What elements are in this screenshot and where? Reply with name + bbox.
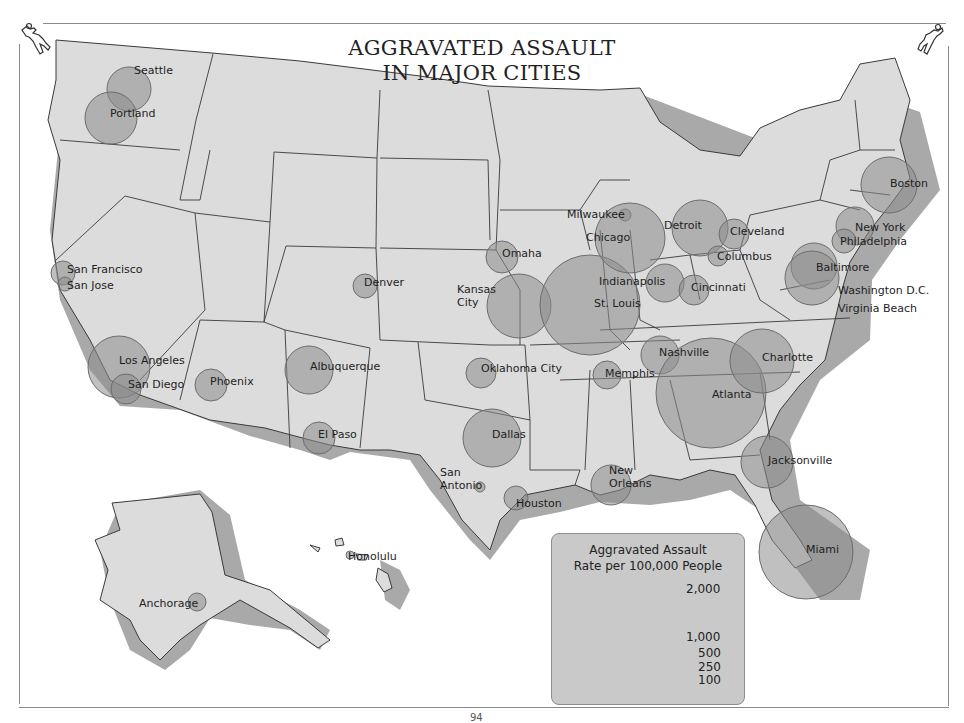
- bubble-washington-d-c: [785, 251, 839, 305]
- city-label-omaha: Omaha: [502, 247, 542, 260]
- city-label-kansas-city: KansasCity: [457, 283, 496, 309]
- title-line-1: AGGRAVATED ASSAULT: [0, 36, 964, 61]
- city-label-jacksonville: Jacksonville: [768, 454, 832, 467]
- city-label-new-york: New York: [855, 221, 905, 234]
- city-label-san-jose: San Jose: [67, 279, 114, 292]
- city-label-albuquerque: Albuquerque: [310, 360, 380, 373]
- legend-label-100: 100: [698, 674, 721, 687]
- city-label-houston: Houston: [516, 497, 562, 510]
- city-label-chicago: Chicago: [586, 231, 630, 244]
- legend-label-2000: 2,000: [686, 583, 720, 596]
- city-label-seattle: Seattle: [134, 64, 173, 77]
- city-label-oklahoma-city: Oklahoma City: [481, 362, 562, 375]
- city-label-anchorage: Anchorage: [139, 597, 198, 610]
- legend-title: Aggravated Assault Rate per 100,000 Peop…: [552, 542, 744, 574]
- legend-title-line-1: Aggravated Assault: [552, 542, 744, 558]
- city-label-charlotte: Charlotte: [762, 351, 813, 364]
- city-label-miami: Miami: [806, 543, 839, 556]
- city-label-san-diego: San Diego: [128, 378, 184, 391]
- city-label-honolulu: Honolulu: [348, 550, 397, 563]
- city-label-boston: Boston: [890, 177, 928, 190]
- city-label-detroit: Detroit: [664, 219, 702, 232]
- city-label-cleveland: Cleveland: [730, 225, 785, 238]
- city-label-nashville: Nashville: [659, 346, 709, 359]
- legend-box: Aggravated Assault Rate per 100,000 Peop…: [551, 533, 745, 705]
- city-label-denver: Denver: [364, 276, 404, 289]
- city-label-virginia-beach: Virginia Beach: [838, 302, 917, 315]
- city-label-new-orleans: NewOrleans: [609, 464, 651, 490]
- city-label-columbus: Columbus: [717, 250, 772, 263]
- city-label-memphis: Memphis: [605, 367, 655, 380]
- city-label-cincinnati: Cincinnati: [691, 281, 746, 294]
- city-label-portland: Portland: [110, 107, 156, 120]
- map-title: AGGRAVATED ASSAULT IN MAJOR CITIES: [0, 36, 964, 86]
- city-label-san-francisco: San Francisco: [67, 263, 143, 276]
- city-label-st-louis: St. Louis: [594, 297, 641, 310]
- city-label-indianapolis: Indianapolis: [599, 275, 665, 288]
- city-label-atlanta: Atlanta: [712, 388, 751, 401]
- city-label-san-antonio: SanAntonio: [440, 466, 482, 492]
- city-label-phoenix: Phoenix: [210, 375, 254, 388]
- city-label-los-angeles: Los Angeles: [119, 354, 185, 367]
- legend-label-500: 500: [698, 647, 721, 660]
- legend-title-line-2: Rate per 100,000 People: [552, 558, 744, 574]
- city-label-el-paso: El Paso: [318, 428, 357, 441]
- city-label-dallas: Dallas: [492, 428, 526, 441]
- city-label-washington-d-c: Washington D.C.: [838, 284, 929, 297]
- city-label-milwaukee: Milwaukee: [567, 208, 625, 221]
- city-label-philadelphia: Philadelphia: [840, 235, 907, 248]
- legend-label-1000: 1,000: [686, 631, 720, 644]
- page-number: 94: [470, 712, 483, 723]
- city-label-baltimore: Baltimore: [816, 261, 869, 274]
